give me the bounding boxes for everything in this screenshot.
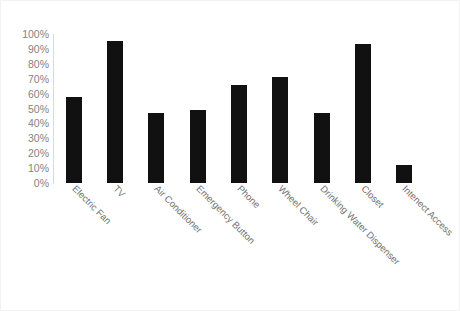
bar-slot: [301, 34, 342, 183]
x-label-slot: Air Conditioner: [136, 185, 177, 310]
x-label-slot: Drinking Water Dispenser: [301, 185, 342, 310]
x-label-slot: TV: [94, 185, 135, 310]
x-axis-category-labels: Electric FanTVAir ConditionerEmergency B…: [53, 185, 425, 310]
y-axis-tick-labels: 0%10%20%30%40%50%60%70%80%90%100%: [1, 34, 49, 183]
bar-slot: [384, 34, 425, 183]
bar[interactable]: [231, 85, 247, 183]
x-label-slot: Emergency Button: [177, 185, 218, 310]
bar-slot: [218, 34, 259, 183]
bar[interactable]: [66, 97, 82, 183]
y-axis-tick-label: 20%: [1, 148, 49, 159]
x-label-slot: Intenect Access: [384, 185, 425, 310]
x-axis-category-label: Phone: [236, 184, 262, 210]
bar[interactable]: [355, 44, 371, 183]
bar-slot: [136, 34, 177, 183]
bar[interactable]: [148, 113, 164, 183]
plot-area: [53, 34, 425, 183]
y-axis-tick-label: 80%: [1, 59, 49, 70]
y-axis-tick-label: 60%: [1, 88, 49, 99]
x-axis-category-label: Closet: [360, 184, 386, 210]
x-label-slot: Phone: [218, 185, 259, 310]
y-axis-tick-label: 50%: [1, 103, 49, 114]
bar-slot: [260, 34, 301, 183]
bar-slot: [342, 34, 383, 183]
bar-slot: [53, 34, 94, 183]
y-axis-tick-label: 30%: [1, 133, 49, 144]
x-label-slot: Electric Fan: [53, 185, 94, 310]
y-axis-tick-label: 70%: [1, 73, 49, 84]
x-label-slot: Wheel Chair: [260, 185, 301, 310]
bar[interactable]: [396, 165, 412, 183]
bar[interactable]: [190, 110, 206, 183]
y-axis-tick-label: 10%: [1, 163, 49, 174]
bar[interactable]: [314, 113, 330, 183]
y-axis-tick-label: 0%: [1, 178, 49, 189]
x-axis-category-label: Intenect Access: [401, 184, 455, 238]
bar[interactable]: [272, 77, 288, 183]
x-axis-category-label: TV: [112, 184, 127, 199]
x-label-slot: Closet: [342, 185, 383, 310]
bar-chart-figure: 0%10%20%30%40%50%60%70%80%90%100% Electr…: [0, 0, 460, 311]
y-axis-tick-label: 100%: [1, 29, 49, 40]
bar-slot: [94, 34, 135, 183]
y-axis-tick-label: 40%: [1, 118, 49, 129]
bar-slot: [177, 34, 218, 183]
y-axis-tick-label: 90%: [1, 44, 49, 55]
bar[interactable]: [107, 41, 123, 183]
